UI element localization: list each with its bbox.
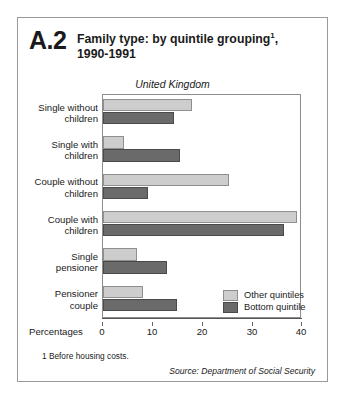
- category-label-line2: children: [64, 150, 98, 161]
- category-label-line1: Pensioner: [55, 288, 98, 299]
- plot-area: Single without children Single with chil…: [18, 94, 329, 322]
- x-axis-tick-label: 10: [147, 326, 158, 337]
- bar-pair: [103, 243, 301, 280]
- category-label-line2: pensioner: [56, 262, 98, 273]
- category-label: Couple without children: [8, 176, 98, 199]
- legend-item-bottom-quintile: Bottom quintile: [223, 302, 306, 314]
- x-axis-title: Percentages: [29, 326, 83, 337]
- bar-bottom-quintile: [103, 261, 167, 273]
- bar-pair: [103, 206, 301, 243]
- figure-title-main: Family type: by quintile grouping: [77, 32, 270, 46]
- bar-bottom-quintile: [103, 112, 174, 124]
- axis-baseline: [102, 318, 302, 319]
- figure-number: A.2: [29, 28, 66, 53]
- category-label-line1: Single without: [38, 101, 98, 112]
- x-axis-tick-label: 30: [247, 326, 258, 337]
- x-axis-tick-label: 20: [197, 326, 208, 337]
- category-label: Single pensioner: [8, 250, 98, 273]
- bar-other-quintiles: [103, 286, 143, 298]
- category-label-line2: children: [64, 225, 98, 236]
- bar-other-quintiles: [103, 174, 229, 186]
- figure-header: A.2 Family type: by quintile grouping1, …: [18, 26, 327, 72]
- bar-pair: [103, 94, 301, 131]
- bar-pair: [103, 169, 301, 206]
- x-axis-tick-label: 40: [296, 326, 307, 337]
- bar-pair: [103, 131, 301, 168]
- legend-item-other-quintiles: Other quintiles: [223, 290, 306, 302]
- category-label-line2: couple: [70, 299, 98, 310]
- category-label-line1: Couple without: [35, 176, 98, 187]
- category-label-line2: children: [64, 187, 98, 198]
- bar-other-quintiles: [103, 136, 124, 148]
- category-label-line1: Single: [71, 250, 98, 261]
- figure-card: A.2 Family type: by quintile grouping1, …: [17, 17, 328, 382]
- bar-bottom-quintile: [103, 299, 177, 311]
- bar-bottom-quintile: [103, 224, 284, 236]
- category-label-line1: Single with: [52, 139, 98, 150]
- chart-legend: Other quintiles Bottom quintile: [223, 290, 306, 313]
- category-label: Couple with children: [8, 213, 98, 236]
- figure-footnote: 1 Before housing costs.: [42, 351, 129, 361]
- bar-other-quintiles: [103, 248, 137, 260]
- legend-swatch-icon: [223, 302, 238, 313]
- category-label-line1: Couple with: [48, 213, 98, 224]
- bar-other-quintiles: [103, 211, 297, 223]
- bar-group: Single with children: [18, 131, 329, 168]
- bar-bottom-quintile: [103, 149, 180, 161]
- category-label: Pensioner couple: [8, 288, 98, 311]
- bar-group: Single without children: [18, 94, 329, 131]
- bar-other-quintiles: [103, 99, 192, 111]
- legend-label: Other quintiles: [244, 290, 304, 302]
- figure-title: Family type: by quintile grouping1, 1990…: [77, 29, 317, 61]
- bar-group: Single pensioner: [18, 243, 329, 280]
- x-axis-tick-label: 0: [99, 326, 104, 337]
- bar-bottom-quintile: [103, 187, 148, 199]
- legend-swatch-icon: [223, 290, 238, 301]
- figure-source: Source: Department of Social Security: [169, 366, 315, 376]
- figure-title-years: 1990-1991: [77, 47, 136, 61]
- category-label: Single with children: [8, 139, 98, 162]
- figure-subtitle: United Kingdom: [18, 78, 327, 90]
- bar-group: Couple with children: [18, 206, 329, 243]
- legend-label: Bottom quintile: [244, 302, 306, 314]
- figure-title-comma: ,: [275, 32, 278, 46]
- bar-group: Couple without children: [18, 169, 329, 206]
- category-label: Single without children: [8, 101, 98, 124]
- x-axis: Percentages 0 10 20 30 40: [18, 322, 329, 342]
- category-label-line2: children: [64, 113, 98, 124]
